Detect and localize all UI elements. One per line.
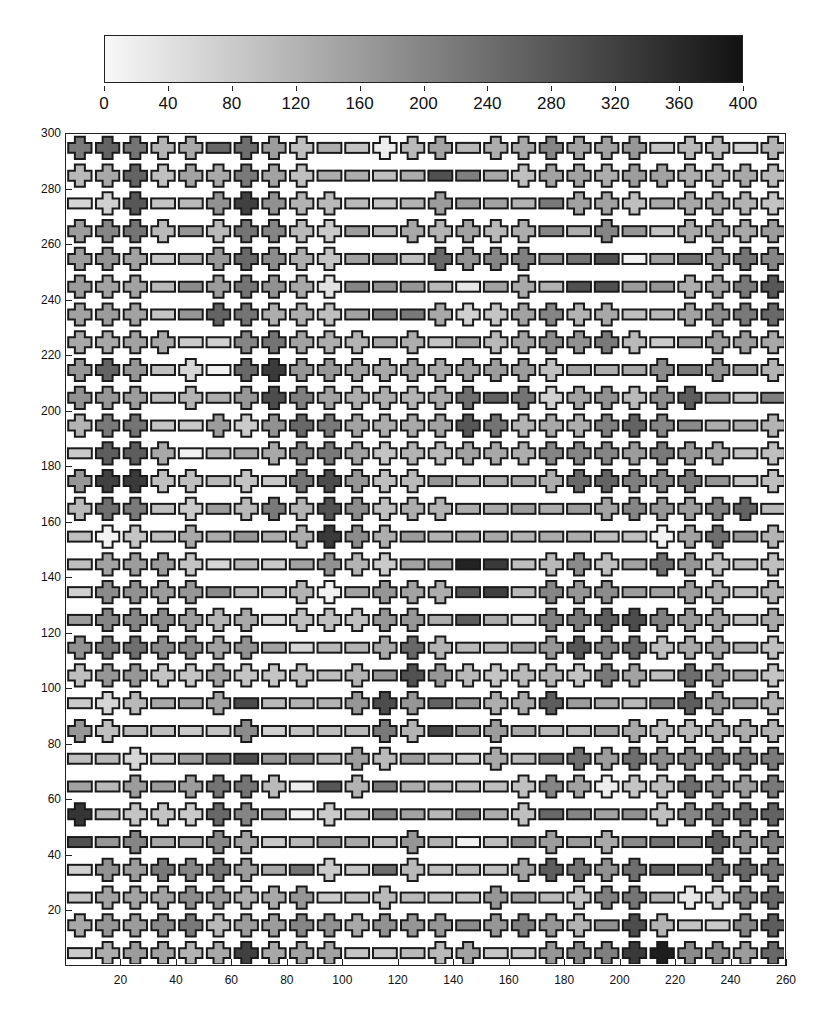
cross-glyph	[651, 609, 674, 631]
cross-glyph	[207, 775, 230, 797]
cross-glyph	[540, 414, 563, 436]
cross-glyph	[262, 442, 285, 464]
cross-glyph	[124, 831, 147, 853]
bar-glyph	[623, 559, 647, 569]
bar-glyph	[318, 754, 342, 764]
cross-glyph	[318, 609, 341, 631]
bar-glyph	[678, 254, 702, 264]
cross-glyph	[124, 692, 147, 714]
cross-glyph	[761, 331, 784, 353]
cross-glyph	[484, 331, 507, 353]
cross-glyph	[540, 581, 563, 603]
bar-glyph	[539, 504, 563, 514]
cross-glyph	[734, 775, 757, 797]
bar-glyph	[428, 171, 452, 181]
bar-glyph	[512, 532, 536, 542]
bar-glyph	[484, 476, 508, 486]
y-tick-label: 180	[41, 459, 61, 473]
cross-glyph	[151, 331, 174, 353]
bar-glyph	[151, 309, 175, 319]
cross-glyph	[706, 886, 729, 908]
cross-glyph	[706, 692, 729, 714]
cross-glyph	[623, 637, 646, 659]
cross-glyph	[68, 303, 91, 325]
x-tick-label: 40	[169, 973, 182, 987]
cross-glyph	[734, 331, 757, 353]
cross-glyph	[318, 498, 341, 520]
cross-glyph	[651, 165, 674, 187]
cross-glyph	[373, 526, 396, 548]
cross-glyph	[124, 886, 147, 908]
bar-glyph	[318, 726, 342, 736]
bar-glyph	[512, 726, 536, 736]
cross-glyph	[373, 414, 396, 436]
cross-glyph	[151, 609, 174, 631]
cross-glyph	[623, 470, 646, 492]
bar-glyph	[318, 670, 342, 680]
bar-glyph	[345, 643, 369, 653]
bar-glyph	[428, 754, 452, 764]
cross-glyph	[262, 220, 285, 242]
cross-glyph	[512, 387, 535, 409]
cross-glyph	[595, 748, 618, 770]
cross-glyph	[262, 942, 285, 964]
colorbar-tick-label: 0	[99, 94, 108, 114]
cross-glyph	[179, 942, 202, 964]
bar-glyph	[567, 726, 591, 736]
bar-glyph	[595, 809, 619, 819]
cross-glyph	[262, 192, 285, 214]
cross-glyph	[235, 942, 258, 964]
bar-glyph	[428, 282, 452, 292]
cross-glyph	[595, 303, 618, 325]
cross-glyph	[484, 720, 507, 742]
bar-glyph	[207, 587, 231, 597]
x-tick	[509, 959, 510, 966]
cross-glyph	[512, 331, 535, 353]
bar-glyph	[733, 365, 757, 375]
cross-glyph	[290, 303, 313, 325]
bar-glyph	[428, 726, 452, 736]
bar-glyph	[151, 254, 175, 264]
bar-glyph	[678, 920, 702, 930]
cross-glyph	[68, 664, 91, 686]
bar-glyph	[623, 226, 647, 236]
bar-glyph	[650, 587, 674, 597]
cross-glyph	[540, 442, 563, 464]
cross-glyph	[262, 886, 285, 908]
cross-glyph	[96, 859, 119, 881]
bar-glyph	[567, 365, 591, 375]
bar-glyph	[151, 532, 175, 542]
bar-glyph	[650, 837, 674, 847]
y-tick-label: 260	[41, 237, 61, 251]
cross-glyph	[68, 387, 91, 409]
cross-glyph	[595, 637, 618, 659]
x-tick	[453, 959, 454, 966]
y-tick	[65, 855, 72, 856]
y-tick-label: 120	[41, 626, 61, 640]
cross-glyph	[151, 942, 174, 964]
cross-glyph	[706, 248, 729, 270]
cross-glyph	[429, 137, 452, 159]
cross-glyph	[346, 748, 369, 770]
cross-glyph	[678, 664, 701, 686]
cross-glyph	[262, 248, 285, 270]
bar-glyph	[207, 393, 231, 403]
cross-glyph	[96, 914, 119, 936]
cross-glyph	[706, 303, 729, 325]
cross-glyph	[290, 498, 313, 520]
colorbar-tick	[487, 86, 488, 91]
bar-glyph	[373, 948, 397, 958]
bar-glyph	[512, 504, 536, 514]
cross-glyph	[68, 276, 91, 298]
cross-glyph	[484, 248, 507, 270]
bar-glyph	[318, 893, 342, 903]
cross-glyph	[96, 165, 119, 187]
cross-glyph	[346, 664, 369, 686]
y-tick	[65, 744, 72, 745]
cross-glyph	[235, 220, 258, 242]
cross-glyph	[207, 276, 230, 298]
bar-glyph	[484, 559, 508, 569]
bar-glyph	[179, 698, 203, 708]
cross-glyph	[373, 886, 396, 908]
cross-glyph	[235, 303, 258, 325]
